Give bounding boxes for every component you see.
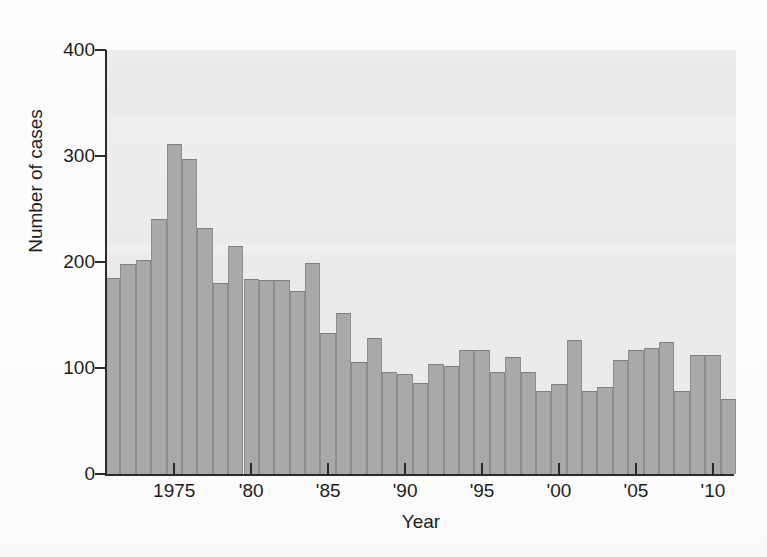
bar-1973 <box>136 260 151 474</box>
bar-series <box>105 50 736 474</box>
bar-1998 <box>521 372 536 474</box>
bar-1997 <box>505 357 520 474</box>
y-tick-0 <box>95 473 106 475</box>
x-tick-1995 <box>481 463 483 476</box>
x-tick-1990 <box>404 463 406 476</box>
bar-1974 <box>151 219 166 474</box>
y-tick-label-0: 0 <box>25 463 95 485</box>
y-tick-label-400: 400 <box>25 39 95 61</box>
y-tick-400 <box>95 49 106 51</box>
bar-1991 <box>413 383 428 474</box>
bar-1979 <box>228 246 243 474</box>
x-tick-2000 <box>558 463 560 476</box>
x-axis-title: Year <box>106 511 736 533</box>
x-tick-label-2000: '00 <box>519 480 599 502</box>
bar-2006 <box>644 348 659 474</box>
y-tick-label-100: 100 <box>25 357 95 379</box>
bar-1988 <box>367 338 382 474</box>
bar-2002 <box>582 391 597 474</box>
bar-2004 <box>613 360 628 474</box>
bar-2005 <box>628 350 643 474</box>
bar-1980 <box>244 279 259 474</box>
x-tick-label-2005: '05 <box>596 480 676 502</box>
bar-2007 <box>659 342 674 475</box>
y-axis-title: Number of cases <box>25 81 47 281</box>
bar-1971 <box>105 278 120 474</box>
bar-1982 <box>274 280 289 474</box>
bar-1990 <box>397 374 412 474</box>
bar-1976 <box>182 159 197 474</box>
x-tick-1975 <box>173 463 175 476</box>
bar-2008 <box>674 391 689 474</box>
x-tick-label-1975: 1975 <box>134 480 214 502</box>
x-tick-2010 <box>712 463 714 476</box>
y-axis-line <box>105 50 107 476</box>
bar-2010 <box>705 355 720 474</box>
bar-1989 <box>382 372 397 474</box>
chart-figure: 0100200300400 1975'80'85'90'95'00'05'10 … <box>0 0 767 557</box>
bar-1993 <box>444 366 459 474</box>
bar-2011 <box>721 399 736 474</box>
bar-1985 <box>320 333 335 474</box>
bar-1992 <box>428 364 443 474</box>
x-tick-2005 <box>635 463 637 476</box>
bar-2001 <box>567 340 582 474</box>
bar-1972 <box>120 264 135 474</box>
y-tick-200 <box>95 261 106 263</box>
bar-1981 <box>259 280 274 474</box>
x-tick-label-1980: '80 <box>211 480 291 502</box>
bar-1984 <box>305 263 320 474</box>
bar-1986 <box>336 313 351 474</box>
bar-1983 <box>290 291 305 474</box>
bar-1975 <box>167 144 182 474</box>
bar-2003 <box>597 387 612 474</box>
bar-1999 <box>536 391 551 474</box>
x-tick-1980 <box>250 463 252 476</box>
bar-1995 <box>474 350 489 474</box>
x-tick-label-1990: '90 <box>365 480 445 502</box>
bar-1977 <box>197 228 212 474</box>
x-tick-label-1995: '95 <box>442 480 522 502</box>
bar-2000 <box>551 384 566 474</box>
bar-1996 <box>490 372 505 474</box>
x-tick-label-2010: '10 <box>673 480 753 502</box>
bar-1987 <box>351 362 366 474</box>
y-tick-300 <box>95 155 106 157</box>
bar-2009 <box>690 355 705 474</box>
x-tick-1985 <box>327 463 329 476</box>
bar-1994 <box>459 350 474 474</box>
x-tick-label-1985: '85 <box>288 480 368 502</box>
x-axis-line <box>105 474 734 476</box>
y-tick-100 <box>95 367 106 369</box>
bar-1978 <box>213 283 228 474</box>
